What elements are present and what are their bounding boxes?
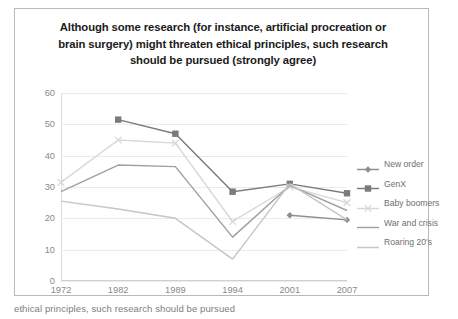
data-point-marker [229, 189, 235, 195]
chart-title-line-2: brain surgery) might threaten ethical pr… [43, 36, 403, 53]
legend-item-baby-boomers[interactable]: Baby boomers [357, 198, 439, 208]
x-tick-1989: 1989 [165, 285, 186, 295]
legend-swatch-icon [357, 199, 379, 208]
legend-swatch-icon [357, 160, 379, 169]
series-war-and-crisis [61, 165, 347, 237]
series-line [61, 165, 347, 237]
series-line [61, 184, 347, 259]
data-point-marker [229, 218, 236, 225]
series-new-order [287, 212, 351, 223]
legend-item-roaring-20-s[interactable]: Roaring 20's [357, 237, 439, 247]
caption-strip: ethical principles, such research should… [14, 303, 434, 319]
chart-title-line-3: should be pursued (strongly agree) [43, 52, 403, 69]
y-tick-50: 50 [45, 119, 55, 129]
x-tick-1972: 1972 [51, 285, 72, 295]
series-baby-boomers [58, 137, 351, 225]
y-tick-10: 10 [45, 245, 55, 255]
y-tick-20: 20 [45, 213, 55, 223]
x-tick-2007: 2007 [337, 285, 358, 295]
chart-legend: New orderGenXBaby boomersWar and crisisR… [357, 159, 439, 247]
chart-title: Although some research (for instance, ar… [43, 19, 403, 69]
y-tick-40: 40 [45, 151, 55, 161]
legend-label: GenX [384, 179, 406, 189]
x-tick-1994: 1994 [222, 285, 243, 295]
legend-swatch-icon [357, 179, 379, 188]
legend-label: War and crisis [384, 218, 438, 228]
series-line [118, 120, 347, 194]
series-genx [115, 116, 350, 196]
series-line [61, 140, 347, 221]
legend-label: New order [384, 159, 424, 169]
series-line [290, 215, 347, 220]
legend-item-genx[interactable]: GenX [357, 179, 439, 189]
chart-title-line-1: Although some research (for instance, ar… [43, 19, 403, 36]
data-point-marker [344, 190, 350, 196]
legend-label: Roaring 20's [384, 237, 432, 247]
data-point-marker [115, 116, 121, 122]
series-roaring-20-s [61, 184, 347, 259]
data-point-marker [58, 179, 65, 186]
caption-text: ethical principles, such research should… [14, 303, 235, 314]
x-tick-1982: 1982 [108, 285, 129, 295]
data-point-marker [287, 212, 293, 218]
data-point-marker [172, 131, 178, 137]
plot-area: 0102030405060 197219821989199420012007 [61, 93, 347, 281]
legend-marker-icon [365, 166, 371, 172]
legend-swatch-icon [357, 238, 379, 247]
legend-item-war-and-crisis[interactable]: War and crisis [357, 218, 439, 228]
legend-marker-icon [365, 185, 371, 191]
y-tick-30: 30 [45, 182, 55, 192]
legend-label: Baby boomers [384, 198, 439, 208]
y-tick-60: 60 [45, 88, 55, 98]
chart-frame: Although some research (for instance, ar… [14, 8, 429, 296]
gridline-0 [61, 281, 347, 282]
legend-item-new-order[interactable]: New order [357, 159, 439, 169]
x-tick-2001: 2001 [279, 285, 300, 295]
legend-swatch-icon [357, 218, 379, 227]
series-lines [61, 93, 347, 281]
